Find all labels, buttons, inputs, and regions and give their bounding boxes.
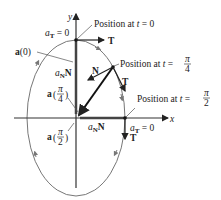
path-direction-arrow-icon — [35, 153, 36, 157]
leader-line — [68, 123, 74, 131]
pi4-denominator: 4 — [185, 64, 190, 74]
position-t-pi4-label: Position at t = — [120, 59, 173, 69]
paren-close: ) — [65, 90, 68, 101]
position-t0-label: Position at t = 0 — [94, 19, 155, 29]
a-pi2-denominator: 2 — [58, 137, 63, 147]
paren-open: ( — [53, 90, 56, 101]
path-direction-arrow-icon — [121, 94, 122, 99]
a0-label: a(0) — [15, 47, 31, 58]
path-direction-arrow-icon — [36, 62, 38, 66]
aN-N-right-label: aNN — [88, 122, 105, 134]
diagram-canvas: x y T T T N Position at t = 0 Position a… — [0, 0, 221, 200]
a-pi4-denominator: 4 — [58, 94, 63, 104]
a-pi4-label: a — [47, 89, 52, 99]
paren-close: ) — [65, 133, 68, 144]
position-t-pi2-label: Position at t = — [137, 94, 190, 104]
normal-label: N — [92, 66, 99, 76]
tangent-label-t0: T — [108, 36, 115, 46]
aN-N-top-label: aNN — [55, 68, 72, 80]
a-pi4-numerator: π — [58, 84, 63, 94]
tangent-label-t-pi4: T — [122, 77, 129, 87]
path-direction-arrow-icon — [115, 150, 117, 154]
leader-line — [126, 108, 135, 117]
a-pi2-label: a — [47, 132, 52, 142]
y-axis-label: y — [67, 12, 73, 22]
pi2-denominator: 2 — [204, 98, 209, 108]
leader-line — [114, 64, 119, 66]
a-pi2-numerator: π — [58, 127, 63, 137]
pi2-numerator: π — [204, 88, 209, 98]
paren-open: ( — [53, 133, 56, 144]
aT-zero-top-label: aT = 0 — [45, 28, 70, 40]
x-axis-label: x — [169, 114, 175, 124]
leader-line — [77, 25, 92, 39]
pi4-numerator: π — [185, 54, 190, 64]
